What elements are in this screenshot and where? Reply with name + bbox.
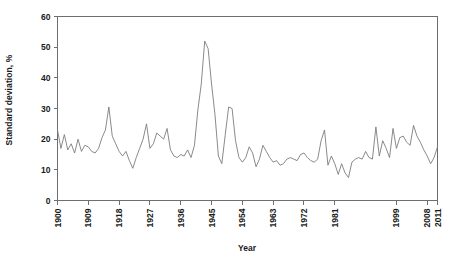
x-tick-label: 1927 [145,208,155,227]
y-tick-label: 30 [41,104,51,114]
x-tick-label: 1909 [83,208,93,227]
x-axis-tick-labels: 1900190919181927193619451954196319721981… [53,208,443,227]
line-chart-plot: 0102030405060 19001909191819271936194519… [0,0,456,265]
x-axis-title-text: Year [238,243,256,253]
x-tick-label: 1936 [176,208,186,227]
y-tick-label: 0 [46,196,51,206]
y-axis-tick-marks [54,17,58,201]
y-tick-label: 60 [41,12,51,22]
x-tick-label: 2008 [422,208,432,227]
y-tick-label: 50 [41,42,51,52]
chart-figure: Standard deviation, % 0102030405060 1900… [0,0,456,265]
y-tick-label: 20 [41,134,51,144]
y-tick-label: 10 [41,165,51,175]
x-axis-title: Year [57,243,437,253]
x-tick-label: 1963 [268,208,278,227]
x-tick-label: 1954 [237,208,247,227]
x-axis-tick-marks [58,201,438,205]
x-tick-label: 1999 [391,208,401,227]
x-tick-label: 1900 [53,208,63,227]
x-tick-label: 1945 [207,208,217,227]
x-tick-label: 1972 [299,208,309,227]
data-series-line [58,41,438,177]
y-axis-tick-labels: 0102030405060 [41,12,51,206]
x-tick-label: 1981 [330,208,340,227]
x-tick-label: 1918 [114,208,124,227]
x-tick-label: 2011 [433,208,443,227]
y-tick-label: 40 [41,73,51,83]
plot-frame [58,17,438,201]
